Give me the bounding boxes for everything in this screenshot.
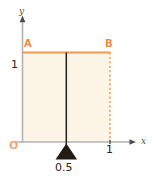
x-tick-label-1: 1	[106, 144, 113, 155]
figure-container: y x A B O 1 1 0.5	[0, 0, 154, 180]
corner-label-b: B	[105, 39, 113, 49]
origin-label: O	[9, 140, 18, 151]
x-axis-arrow-icon	[130, 139, 137, 144]
x-axis-label: x	[141, 137, 146, 146]
fulcrum-label: 0.5	[55, 162, 73, 173]
diagram-canvas	[0, 0, 154, 180]
y-tick-label-1: 1	[11, 59, 18, 70]
fulcrum-triangle-icon	[56, 144, 78, 160]
y-axis-label: y	[19, 7, 24, 16]
corner-label-a: A	[24, 39, 32, 49]
y-axis-arrow-icon	[20, 16, 26, 23]
